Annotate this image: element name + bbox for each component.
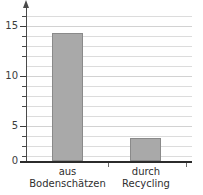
category-label-line1: aus — [14, 166, 121, 178]
y-axis-label-0-wrap: 0 — [0, 156, 18, 166]
y-tick-minor — [22, 86, 26, 87]
category-label-line1: durch — [106, 166, 186, 178]
gridline — [26, 86, 192, 87]
y-axis-arrow-icon — [23, 0, 29, 8]
y-axis-label-15: 15 — [0, 21, 18, 31]
x-axis-line — [20, 161, 192, 163]
gridline — [26, 66, 192, 67]
bar-aus-bodenschaetzen — [52, 33, 83, 161]
y-tick-major-10 — [20, 76, 26, 77]
y-axis-label-15-wrap: 15 — [0, 21, 18, 31]
y-axis-label-5-wrap: 5 — [0, 121, 18, 131]
y-axis-line — [26, 6, 27, 163]
y-tick-major-5 — [20, 126, 26, 127]
category-label-line2: Bodenschätzen — [14, 178, 121, 190]
y-tick-minor — [22, 96, 26, 97]
y-axis-label-0: 0 — [0, 156, 18, 166]
y-tick-minor — [22, 56, 26, 57]
category-label-aus-bodenschaetzen: aus Bodenschätzen — [14, 166, 121, 190]
gridline — [26, 16, 192, 17]
bar-durch-recycling — [130, 138, 161, 161]
y-tick-minor — [22, 136, 26, 137]
y-tick-minor — [22, 46, 26, 47]
gridline — [26, 96, 192, 97]
gridline — [26, 46, 192, 47]
gridline-major-5 — [26, 126, 192, 127]
y-tick-minor — [22, 36, 26, 37]
y-tick-major-15 — [20, 26, 26, 27]
gridline — [26, 146, 192, 147]
gridline — [26, 56, 192, 57]
gridline-major-10 — [26, 76, 192, 77]
gridline-major-15 — [26, 26, 192, 27]
bar-chart: 15 10 5 0 aus Bodenschätzen durch Recycl… — [0, 0, 203, 195]
gridline — [26, 106, 192, 107]
gridline — [26, 36, 192, 37]
gridline — [26, 116, 192, 117]
y-tick-minor — [22, 156, 26, 157]
y-axis-label-5: 5 — [0, 121, 18, 131]
y-tick-minor — [22, 106, 26, 107]
y-tick-minor — [22, 146, 26, 147]
gridline — [26, 136, 192, 137]
category-label-line2: Recycling — [106, 178, 186, 190]
category-label-durch-recycling: durch Recycling — [106, 166, 186, 190]
y-tick-minor — [22, 16, 26, 17]
plot-area — [26, 8, 192, 161]
y-axis-label-10-wrap: 10 — [0, 71, 18, 81]
x-tick-end — [186, 163, 187, 167]
gridline — [26, 156, 192, 157]
y-axis-label-10: 10 — [0, 71, 18, 81]
